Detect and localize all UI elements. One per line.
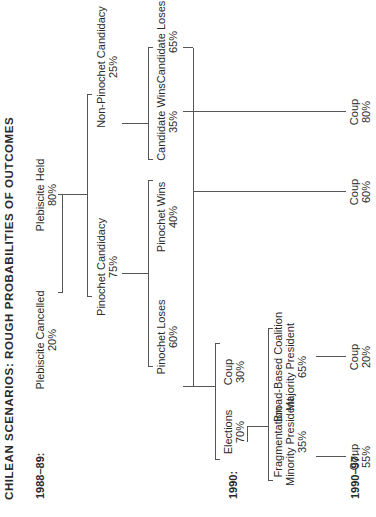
connector-line	[122, 273, 148, 274]
connector-line	[183, 111, 346, 112]
connector-line	[148, 181, 149, 367]
node-probability: 65%	[167, 1, 179, 84]
node-coup-after-fragmentation: Coup 55%	[348, 444, 372, 470]
node-non-pinochet-candidacy: Non-Pinochet Candidacy 25%	[95, 6, 119, 128]
node-label: Coup	[348, 444, 360, 470]
node-coup-after-candidate-wins: Coup 80%	[348, 99, 372, 125]
node-label: Plebiscite Held	[34, 159, 46, 232]
node-probability: 80%	[46, 159, 58, 232]
connector-line	[316, 356, 346, 357]
node-label: Broad-Based Coalition	[272, 312, 284, 422]
connector-line	[148, 159, 153, 160]
scenario-tree-diagram: CHILEAN SCENARIOS: ROUGH PROBABILITIES O…	[0, 0, 376, 517]
connector-line	[193, 191, 346, 192]
node-label: Pinochet Loses	[155, 299, 167, 374]
diagram-title: CHILEAN SCENARIOS: ROUGH PROBABILITIES O…	[3, 117, 15, 500]
node-probability: 35%	[167, 83, 179, 161]
node-probability: 20%	[46, 290, 58, 389]
node-label: Pinochet Wins	[155, 182, 167, 252]
connector-line	[58, 292, 63, 293]
node-probability: 40%	[167, 182, 179, 252]
connector-line	[215, 344, 216, 460]
connector-line	[148, 48, 149, 160]
node-candidate-loses: Candidate Loses 65%	[155, 1, 179, 84]
node-probability: 30%	[234, 359, 246, 385]
node-probability: 80%	[360, 99, 372, 125]
connector-line	[268, 329, 269, 481]
node-pinochet-loses: Pinochet Loses 60%	[155, 299, 179, 374]
node-plebiscite-cancelled: Plebiscite Cancelled 20%	[34, 290, 58, 389]
connector-line	[122, 123, 148, 124]
connector-line	[215, 343, 220, 344]
node-label: Plebiscite Cancelled	[34, 290, 46, 389]
connector-line	[247, 427, 248, 442]
connector-line	[87, 296, 92, 297]
node-label: Candidate Wins	[155, 83, 167, 161]
node-probability: 70%	[234, 410, 246, 455]
node-probability: 60%	[167, 299, 179, 374]
connector-line	[316, 456, 346, 457]
connector-line	[62, 195, 63, 293]
node-label: Pinochet Candidacy	[95, 218, 107, 316]
connector-line	[193, 386, 215, 387]
connector-line	[215, 459, 220, 460]
connector-line	[148, 366, 153, 367]
node-probability: 75%	[107, 218, 119, 316]
node-elections: Elections 70%	[222, 410, 246, 455]
node-probability: 60%	[360, 179, 372, 205]
node-coup-after-pinochet-wins: Coup 60%	[348, 179, 372, 205]
node-label: Coup	[348, 99, 360, 125]
node-probability: 25%	[107, 6, 119, 128]
node-coup-after-broad-coalition: Coup 20%	[348, 344, 372, 370]
node-coup-1990: Coup 30%	[222, 359, 246, 385]
node-pinochet-wins: Pinochet Wins 40%	[155, 182, 179, 252]
connector-line	[87, 95, 88, 297]
node-candidate-wins: Candidate Wins 35%	[155, 83, 179, 161]
period-label-1988-89: 1988–89:	[34, 453, 46, 500]
node-label: Coup	[348, 344, 360, 370]
node-label: Coup	[222, 359, 234, 385]
node-label: Coup	[348, 179, 360, 205]
node-label: Majority President	[284, 312, 296, 422]
connector-line	[183, 47, 193, 48]
merge-line	[193, 48, 194, 387]
node-pinochet-candidacy: Pinochet Candidacy 75%	[95, 218, 119, 316]
node-probability: 65%	[296, 312, 308, 422]
node-broad-coalition-majority: Broad-Based Coalition Majority President…	[272, 312, 308, 422]
connector-line	[247, 426, 268, 427]
connector-line	[148, 47, 153, 48]
node-label: Candidate Loses	[155, 1, 167, 84]
connector-line	[183, 386, 193, 387]
connector-line	[148, 180, 153, 181]
period-label-1990: 1990:	[227, 471, 239, 499]
node-label: Elections	[222, 410, 234, 455]
node-probability: 20%	[360, 344, 372, 370]
node-plebiscite-held: Plebiscite Held 80%	[34, 159, 58, 232]
connector-line	[62, 194, 87, 195]
node-label: Non-Pinochet Candidacy	[95, 6, 107, 128]
node-probability: 55%	[360, 444, 372, 470]
connector-line	[87, 94, 92, 95]
